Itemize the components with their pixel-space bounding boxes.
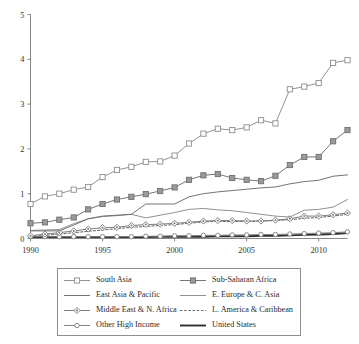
marker-open-circle	[230, 233, 234, 237]
marker-diamond-center	[318, 215, 320, 217]
marker-filled-square	[71, 215, 76, 220]
legend-item-east-asia-pacific[interactable]: East Asia & Pacific	[63, 290, 179, 301]
marker-filled-square	[244, 177, 249, 182]
legend-item-united-states[interactable]: United States	[179, 320, 295, 331]
marker-open-circle	[172, 234, 176, 238]
marker-diamond-center	[116, 226, 118, 228]
marker-open-square	[28, 201, 33, 206]
legend-item-l-america-caribbean[interactable]: L. America & Caribbean	[179, 305, 295, 316]
legend-sample-diamond-icon	[63, 305, 91, 316]
marker-open-circle	[75, 323, 79, 327]
marker-filled-square	[143, 192, 148, 197]
legend-label: Middle East & N. Africa	[96, 306, 177, 314]
marker-open-circle	[100, 235, 104, 239]
legend-label: Other High Income	[96, 321, 160, 329]
legend-label: E. Europe & C. Asia	[212, 291, 279, 299]
marker-filled-square	[302, 154, 307, 159]
marker-filled-square	[114, 197, 119, 202]
marker-open-square	[42, 194, 47, 199]
series-south-asia	[28, 58, 350, 207]
marker-diamond-center	[30, 235, 32, 237]
marker-open-circle	[259, 232, 263, 236]
legend-sample-line-icon	[63, 290, 91, 301]
marker-open-square	[258, 118, 263, 123]
marker-open-square	[244, 125, 249, 130]
marker-open-square	[287, 87, 292, 92]
marker-filled-square	[86, 207, 91, 212]
marker-filled-square	[158, 188, 163, 193]
legend-sample-open-square-icon	[63, 275, 91, 286]
marker-filled-square	[100, 201, 105, 206]
legend-sample-filled-square-icon	[179, 275, 207, 286]
marker-filled-square	[230, 175, 235, 180]
marker-diamond-center	[231, 220, 233, 222]
marker-filled-square	[57, 217, 62, 222]
legend-label: United States	[212, 321, 256, 329]
marker-diamond-center	[332, 214, 334, 216]
marker-open-square	[230, 127, 235, 132]
marker-diamond-center	[145, 224, 147, 226]
marker-filled-square	[316, 154, 321, 159]
marker-open-circle	[345, 230, 349, 234]
chart-legend: South AsiaSub-Saharan AfricaEast Asia & …	[57, 268, 301, 336]
legend-label: South Asia	[96, 276, 132, 284]
marker-open-circle	[273, 232, 277, 236]
marker-diamond-center	[289, 218, 291, 220]
marker-open-square	[273, 121, 278, 126]
marker-open-circle	[187, 234, 191, 238]
marker-diamond-center	[58, 232, 60, 234]
legend-item-e-europe-c-asia[interactable]: E. Europe & C. Asia	[179, 290, 295, 301]
marker-diamond-center	[174, 222, 176, 224]
marker-open-square	[215, 126, 220, 131]
marker-diamond-center	[274, 219, 276, 221]
marker-filled-square	[287, 162, 292, 167]
marker-open-circle	[86, 235, 90, 239]
legend-item-middle-east-n-africa[interactable]: Middle East & N. Africa	[63, 305, 179, 316]
x-tick-label: 1990	[22, 246, 39, 255]
marker-open-circle	[72, 235, 76, 239]
marker-open-circle	[129, 235, 133, 239]
marker-open-square	[74, 278, 79, 283]
legend-label: Sub-Saharan Africa	[212, 276, 276, 284]
marker-open-square	[201, 131, 206, 136]
marker-open-circle	[316, 231, 320, 235]
marker-open-square	[86, 184, 91, 189]
marker-diamond-center	[102, 227, 104, 229]
marker-diamond-center	[73, 230, 75, 232]
y-tick-label: 2	[20, 145, 24, 154]
marker-filled-square	[215, 171, 220, 176]
marker-filled-square	[172, 185, 177, 190]
legend-item-other-high-income[interactable]: Other High Income	[63, 320, 179, 331]
marker-filled-square	[258, 179, 263, 184]
marker-filled-square	[42, 220, 47, 225]
marker-open-square	[129, 164, 134, 169]
marker-open-square	[172, 153, 177, 158]
y-tick-label: 1	[20, 190, 24, 199]
marker-open-square	[114, 167, 119, 172]
marker-open-circle	[216, 233, 220, 237]
marker-diamond-center	[188, 221, 190, 223]
marker-diamond-center	[76, 310, 78, 312]
marker-open-circle	[144, 234, 148, 238]
legend-label: East Asia & Pacific	[96, 291, 160, 299]
marker-filled-square	[129, 194, 134, 199]
legend-grid: South AsiaSub-Saharan AfricaEast Asia & …	[63, 273, 295, 331]
marker-filled-square	[190, 278, 195, 283]
x-tick-label: 1995	[94, 246, 111, 255]
x-tick-label: 2000	[166, 246, 183, 255]
marker-filled-square	[273, 173, 278, 178]
marker-open-circle	[331, 230, 335, 234]
marker-open-square	[71, 187, 76, 192]
marker-open-square	[316, 80, 321, 85]
marker-diamond-center	[347, 212, 349, 214]
marker-diamond-center	[130, 225, 132, 227]
legend-sample-line-icon	[179, 290, 207, 301]
marker-open-circle	[201, 233, 205, 237]
marker-open-square	[100, 175, 105, 180]
legend-item-south-asia[interactable]: South Asia	[63, 275, 179, 286]
marker-open-circle	[244, 233, 248, 237]
legend-item-sub-saharan-africa[interactable]: Sub-Saharan Africa	[179, 275, 295, 286]
marker-diamond-center	[260, 220, 262, 222]
marker-filled-square	[330, 139, 335, 144]
marker-open-square	[302, 84, 307, 89]
